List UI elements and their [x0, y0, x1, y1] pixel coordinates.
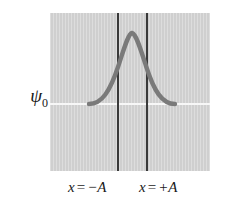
tick-right-op: = [148, 179, 156, 195]
psi-zero-axis-label: ψ0 [8, 86, 48, 109]
tick-label-minus-a: x=−A [68, 180, 106, 195]
psi-symbol: ψ [30, 85, 42, 106]
tick-left-var: x [68, 179, 75, 195]
wavefunction-curve [50, 13, 210, 171]
tick-label-plus-a: x=+A [139, 180, 177, 195]
curve-path [89, 33, 175, 104]
tick-left-op: = [77, 179, 85, 195]
plot-panel [50, 13, 210, 171]
tick-left-value: −A [87, 179, 106, 195]
tick-right-var: x [139, 179, 146, 195]
wavefunction-figure: ψ0 x=−A x=+A [0, 0, 225, 204]
psi-subscript: 0 [42, 96, 48, 110]
tick-right-value: +A [158, 179, 177, 195]
